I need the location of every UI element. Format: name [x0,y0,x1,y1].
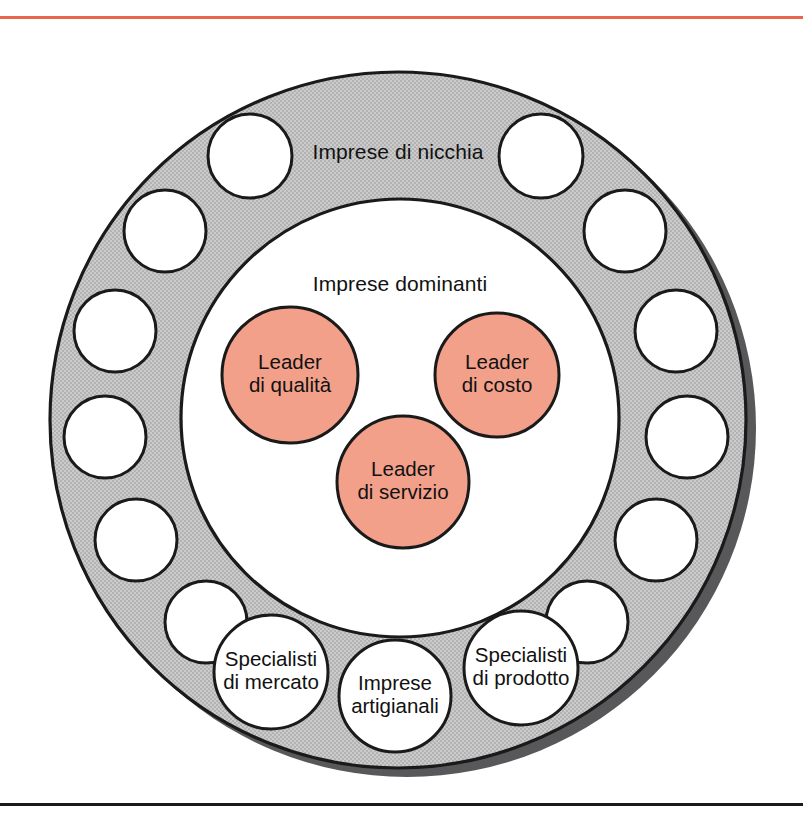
ring-circle-label-line2: di mercato [223,670,319,693]
ring-circle-niche-8[interactable] [646,396,728,478]
ring-circle-niche-10[interactable] [615,499,697,581]
ring-circle-shape [635,290,717,372]
ring-circle-craft-firms[interactable]: Impreseartigianali [339,640,451,752]
inner-disc-label: Imprese dominanti [313,272,487,295]
ring-circle-label-line1: Specialisti [225,647,317,670]
ring-circle-shape [584,190,666,272]
ring-circle-shape [74,290,156,372]
outer-ring-label: Imprese di nicchia [312,140,483,163]
leader-label-line2: di qualità [249,373,332,396]
ring-circle-shape [499,114,583,198]
ring-circle-label-line2: di prodotto [473,666,570,689]
ring-circle-shape [124,190,206,272]
leader-circle-service[interactable]: Leaderdi servizio [337,416,469,548]
ring-circle-shape [615,499,697,581]
ring-circle-label-line1: Specialisti [475,643,567,666]
ring-circle-shape [95,499,177,581]
leader-circle-cost[interactable]: Leaderdi costo [435,313,559,437]
ring-circle-niche-4[interactable] [584,190,666,272]
bottom-rule-line [0,803,803,806]
ring-circle-niche-6[interactable] [635,290,717,372]
leader-label-line1: Leader [465,350,529,373]
ring-circle-niche-3[interactable] [124,190,206,272]
ring-circle-niche-2[interactable] [499,114,583,198]
ring-circle-label-line1: Imprese [358,671,432,694]
ring-circle-niche-1[interactable] [208,114,292,198]
ring-circle-shape [646,396,728,478]
ring-circle-niche-7[interactable] [64,396,146,478]
ring-circle-shape [208,114,292,198]
ring-circle-product-specialists[interactable]: Specialistidi prodotto [464,611,578,725]
ring-circle-shape [64,396,146,478]
ring-circle-label-line2: artigianali [351,694,439,717]
leader-circle-quality[interactable]: Leaderdi qualità [222,307,358,443]
leader-label-line1: Leader [371,457,435,480]
ring-circle-market-specialists[interactable]: Specialistidi mercato [214,615,328,729]
concentric-circle-diagram: Specialistidi mercatoImpreseartigianaliS… [0,0,803,823]
figure-canvas: Specialistidi mercatoImpreseartigianaliS… [0,0,803,823]
ring-circle-niche-5[interactable] [74,290,156,372]
leader-label-line2: di servizio [357,480,448,503]
ring-circle-niche-9[interactable] [95,499,177,581]
leader-label-line2: di costo [462,373,533,396]
leader-label-line1: Leader [258,350,322,373]
